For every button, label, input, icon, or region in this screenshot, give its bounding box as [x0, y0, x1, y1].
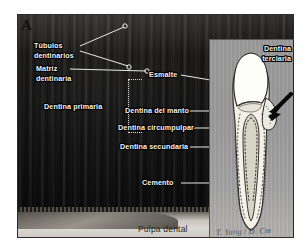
micrograph-panel: Pulpa dental [17, 14, 294, 238]
artist-signature: T. Yang / D. Cm [216, 226, 271, 237]
tooth-longitudinal-section [210, 40, 294, 238]
label-matriz-line2: dentinaria [36, 74, 71, 84]
label-tubulos-line2: dentinarios [34, 51, 74, 61]
panel-letter-a: A [21, 17, 32, 34]
label-dentina-secundaria: Dentina secundaria [120, 142, 188, 151]
tooth-diagram-inset: Dentina terciaria T. Yang / D. Cm [209, 39, 294, 238]
label-esmalte: Esmalte [149, 70, 177, 79]
figure-dentin-histology: Pulpa dental [0, 0, 306, 247]
label-matriz-dentinaria: Matriz dentinaria [36, 64, 71, 83]
label-matriz-line1: Matriz [36, 64, 71, 74]
label-tubulos-line1: Túbulos [34, 41, 74, 51]
label-dentina-primaria: Dentina primaria [44, 102, 102, 111]
label-cemento: Cemento [142, 178, 173, 187]
label-dentina-del-manto: Dentina del manto [125, 106, 189, 115]
tertiary-dentin-arrow-icon [263, 92, 293, 124]
label-tubulos-dentinarios: Túbulos dentinarios [34, 41, 74, 60]
label-dentina-terciaria-line2: terciaria [262, 54, 291, 64]
label-dentina-circumpulpar: Dentina circumpulpar [118, 123, 194, 132]
label-dentina-terciaria-line1: Dentina [262, 44, 291, 54]
label-dentina-terciaria: Dentina terciaria [262, 44, 291, 63]
